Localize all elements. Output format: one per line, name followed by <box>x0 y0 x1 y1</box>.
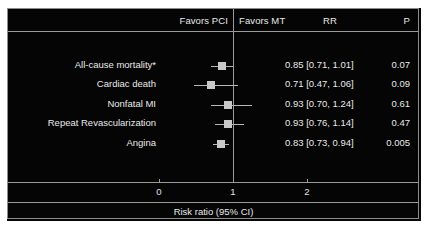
x-axis-title: Risk ratio (95% CI) <box>8 206 419 217</box>
x-tick-mark-0 <box>159 179 160 183</box>
column-header-p: P <box>380 15 410 26</box>
column-header-rr: RR <box>310 15 350 26</box>
x-tick-label-2: 2 <box>297 186 317 197</box>
rr-value: 0.83 [0.73, 0.94] <box>285 137 375 148</box>
row-label: Nonfatal MI <box>20 98 156 109</box>
p-value: 0.09 <box>370 78 410 89</box>
effect-estimate-marker <box>217 140 225 148</box>
x-tick-label-1: 1 <box>223 186 243 197</box>
row-label: Cardiac death <box>20 78 156 89</box>
reference-line-rr-1 <box>233 9 234 182</box>
rr-value: 0.93 [0.70, 1.24] <box>285 98 375 109</box>
effect-estimate-marker <box>218 62 226 70</box>
footer-separator-line <box>8 202 419 203</box>
rr-value: 0.71 [0.47, 1.06] <box>285 78 375 89</box>
confidence-interval-line <box>194 85 238 86</box>
p-value: 0.005 <box>370 137 410 148</box>
row-label: All-cause mortality* <box>20 59 156 70</box>
effect-estimate-marker <box>224 120 232 128</box>
column-header-favors-pci: Favors PCI <box>156 15 228 26</box>
effect-estimate-marker <box>207 81 215 89</box>
effect-estimate-marker <box>224 101 232 109</box>
x-tick-mark-2 <box>307 179 308 183</box>
x-tick-mark-1 <box>233 179 234 183</box>
rr-value: 0.93 [0.76, 1.14] <box>285 117 375 128</box>
p-value: 0.07 <box>370 59 410 70</box>
column-header-favors-mt: Favors MT <box>239 15 285 26</box>
p-value: 0.47 <box>370 117 410 128</box>
row-label: Repeat Revascularization <box>20 117 156 128</box>
x-tick-label-0: 0 <box>149 186 169 197</box>
axis-baseline <box>8 182 419 183</box>
p-value: 0.61 <box>370 98 410 109</box>
row-label: Angina <box>20 137 156 148</box>
rr-value: 0.85 [0.71, 1.01] <box>285 59 375 70</box>
header-separator-line <box>8 31 419 32</box>
forest-plot-figure: Favors PCI Favors MT RR P All-cause mort… <box>0 0 439 231</box>
chart-panel <box>7 8 421 221</box>
